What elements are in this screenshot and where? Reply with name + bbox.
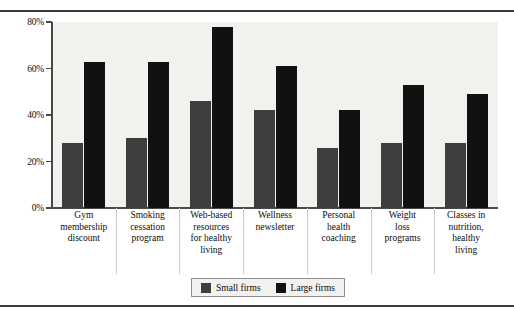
x-axis-label: Gymmembershipdiscount — [52, 210, 116, 245]
bar-large-firms — [276, 66, 297, 208]
x-axis-label: Wellnessnewsletter — [243, 210, 307, 233]
bar-group — [251, 22, 300, 208]
bar-large-firms — [212, 27, 233, 208]
legend-swatch-small-firms — [201, 283, 211, 293]
bar-small-firms — [317, 148, 338, 208]
bar-small-firms — [254, 110, 275, 208]
bar-large-firms — [467, 94, 488, 208]
plot-area: 0%20%40%60%80% — [52, 22, 498, 208]
legend-label-large-firms: Large firms — [291, 283, 335, 293]
x-axis-labels: GymmembershipdiscountSmokingcessationpro… — [52, 210, 498, 276]
x-axis-label: Personalhealthcoaching — [307, 210, 371, 245]
x-axis-label: Weightlossprograms — [371, 210, 435, 245]
bar-small-firms — [126, 138, 147, 208]
chart-legend: Small firms Large firms — [191, 278, 345, 297]
bar-large-firms — [148, 62, 169, 208]
bar-small-firms — [190, 101, 211, 208]
bar-group — [442, 22, 491, 208]
x-axis-label: Smokingcessationprogram — [116, 210, 180, 245]
legend-item-small-firms: Small firms — [201, 283, 261, 293]
bottom-divider-rule — [0, 305, 514, 307]
bar-group — [59, 22, 108, 208]
bar-series-container — [52, 22, 498, 208]
bar-large-firms — [403, 85, 424, 208]
bar-small-firms — [62, 143, 83, 208]
x-axis-label: Web-basedresourcesfor healthyliving — [179, 210, 243, 256]
bar-large-firms — [84, 62, 105, 208]
bar-group — [187, 22, 236, 208]
legend-item-large-firms: Large firms — [276, 283, 335, 293]
y-tick-label-80: 80% — [14, 17, 44, 27]
legend-swatch-large-firms — [276, 283, 286, 293]
bar-small-firms — [381, 143, 402, 208]
bar-group — [123, 22, 172, 208]
y-tick-label-0: 0% — [14, 203, 44, 213]
x-axis-label: Classes innutrition,healthyliving — [434, 210, 498, 256]
y-tick-label-60: 60% — [14, 64, 44, 74]
bar-small-firms — [445, 143, 466, 208]
bar-group — [378, 22, 427, 208]
bar-group — [314, 22, 363, 208]
legend-label-small-firms: Small firms — [216, 283, 261, 293]
top-divider-rule — [0, 10, 514, 12]
y-tick-label-40: 40% — [14, 110, 44, 120]
bar-large-firms — [339, 110, 360, 208]
chart-page: 0%20%40%60%80% GymmembershipdiscountSmok… — [0, 0, 514, 317]
y-tick-label-20: 20% — [14, 157, 44, 167]
